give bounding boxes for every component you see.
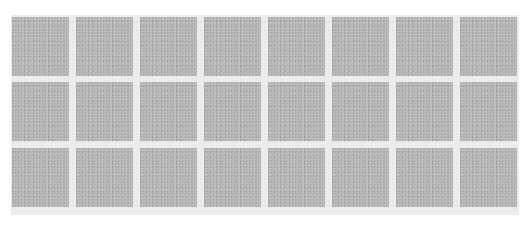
noise-tile [204, 17, 261, 76]
noise-tile [76, 148, 133, 207]
noise-tile [396, 17, 453, 76]
noise-tile [268, 17, 325, 76]
noise-tile [140, 17, 197, 76]
noise-tile [140, 148, 197, 207]
noise-tile [460, 82, 517, 141]
noise-tile [204, 148, 261, 207]
noise-tile [12, 17, 69, 76]
noise-tile [76, 17, 133, 76]
noise-tile [268, 82, 325, 141]
noise-tile [332, 17, 389, 76]
noise-tile [204, 82, 261, 141]
noise-tile [12, 82, 69, 141]
noise-tile [332, 148, 389, 207]
noise-tile [332, 82, 389, 141]
noise-tile [460, 148, 517, 207]
noise-tile [140, 82, 197, 141]
noise-tile [268, 148, 325, 207]
noise-tile [12, 148, 69, 207]
noise-tile [76, 82, 133, 141]
noise-tile [396, 148, 453, 207]
noise-tile [396, 82, 453, 141]
noise-tile [460, 17, 517, 76]
